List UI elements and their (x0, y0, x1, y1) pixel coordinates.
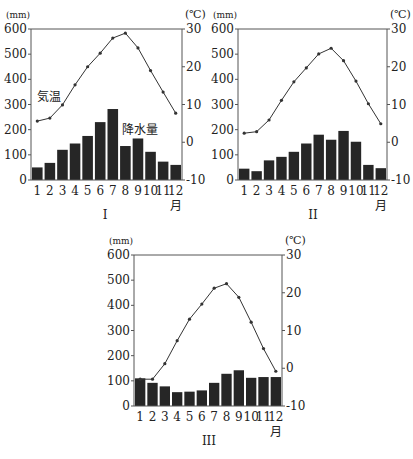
right-tick-label: 30 (186, 22, 201, 36)
temperature-point (292, 80, 295, 83)
temperature-annotation: 気温 (37, 89, 61, 104)
precip-bar (221, 374, 231, 406)
month-label: 7 (210, 410, 218, 424)
month-label: 3 (265, 184, 273, 198)
temperature-point (111, 36, 114, 39)
right-tick-label: 20 (391, 60, 406, 74)
precip-bar (57, 150, 68, 180)
precip-bar (289, 152, 299, 180)
temperature-point (200, 302, 203, 305)
precip-bar (351, 142, 361, 180)
month-label: 7 (315, 184, 323, 198)
temperature-point (237, 296, 240, 299)
left-tick-label: 400 (4, 72, 27, 86)
temperature-point (262, 347, 265, 350)
climate-chart-1: 0100200300400500600(mm)-100102030(℃)1234… (0, 0, 210, 219)
precip-bar (338, 131, 348, 180)
temperature-point (354, 79, 357, 82)
left-tick-label: 300 (107, 324, 130, 338)
temperature-point (330, 47, 333, 50)
temperature-point (342, 59, 345, 62)
month-label: 9 (235, 410, 243, 424)
temperature-point (163, 362, 166, 365)
precip-bar (326, 140, 336, 180)
left-tick-label: 400 (107, 298, 130, 312)
temperature-point (162, 90, 165, 93)
left-tick-label: 400 (211, 72, 234, 86)
month-label: 12 (268, 410, 283, 424)
temperature-point (139, 378, 142, 381)
temperature-point (36, 120, 39, 123)
month-label: 6 (302, 184, 310, 198)
month-label: 5 (186, 410, 194, 424)
left-tick-label: 200 (107, 349, 130, 363)
chart-3-caption: III (194, 434, 224, 448)
precipitation-annotation: 降水量 (122, 123, 158, 137)
precip-bar (147, 383, 157, 406)
right-tick-label: 10 (186, 98, 201, 112)
month-unit-label: 月 (170, 199, 182, 213)
precip-bar (95, 122, 106, 180)
precip-bar (82, 136, 93, 180)
right-tick-label: 10 (391, 98, 406, 112)
left-tick-label: 0 (19, 173, 27, 187)
temperature-line (244, 48, 381, 133)
precip-bar (108, 109, 119, 180)
temperature-point (367, 102, 370, 105)
precip-bar (234, 370, 244, 406)
left-tick-label: 500 (4, 47, 27, 61)
precip-bar (184, 392, 194, 406)
celsius-unit-label: (℃) (390, 8, 411, 21)
left-tick-label: 200 (4, 123, 27, 137)
month-label: 8 (122, 184, 130, 198)
month-label: 8 (327, 184, 335, 198)
precip-bar (45, 163, 56, 180)
month-unit-label: 月 (270, 425, 282, 439)
month-label: 6 (96, 184, 104, 198)
right-tick-label: 20 (186, 60, 201, 74)
right-tick-label: 0 (286, 361, 294, 375)
temperature-point (255, 130, 258, 133)
temperature-point (188, 318, 191, 321)
month-label: 1 (240, 184, 248, 198)
precip-bar (145, 152, 156, 180)
month-label: 3 (59, 184, 67, 198)
temperature-point (136, 46, 139, 49)
chart-2-svg: 0100200300400500600(mm)-100102030(℃)1234… (207, 0, 413, 215)
precip-bar (32, 167, 43, 180)
temperature-point (225, 282, 228, 285)
temperature-line (140, 284, 276, 380)
precip-bar (197, 390, 207, 406)
month-label: 5 (84, 184, 92, 198)
month-label: 3 (161, 410, 169, 424)
temperature-point (73, 83, 76, 86)
mm-unit-label: (mm) (6, 10, 30, 20)
temperature-point (213, 287, 216, 290)
temperature-point (99, 52, 102, 55)
precip-bar (120, 146, 131, 180)
right-tick-label: 30 (286, 248, 301, 262)
temperature-line (37, 33, 175, 121)
temperature-point (61, 103, 64, 106)
mm-unit-label: (mm) (213, 10, 237, 20)
precip-bar (135, 378, 145, 406)
climate-chart-3: 0100200300400500600(mm)-100102030(℃)1234… (103, 226, 313, 445)
right-tick-label: 20 (286, 286, 301, 300)
left-tick-label: 100 (4, 148, 27, 162)
precip-bar (251, 171, 261, 180)
month-label: 12 (168, 184, 183, 198)
precip-bar (170, 165, 181, 180)
precip-bar (258, 377, 268, 406)
left-tick-label: 500 (107, 273, 130, 287)
temperature-point (317, 52, 320, 55)
precip-bar (70, 144, 81, 180)
month-label: 9 (340, 184, 348, 198)
precip-bar (209, 383, 219, 406)
month-label: 2 (149, 410, 157, 424)
celsius-unit-label: (℃) (185, 8, 206, 21)
month-label: 4 (278, 184, 286, 198)
temperature-point (86, 65, 89, 68)
right-tick-label: 30 (391, 22, 406, 36)
month-label: 4 (173, 410, 181, 424)
month-label: 2 (253, 184, 261, 198)
